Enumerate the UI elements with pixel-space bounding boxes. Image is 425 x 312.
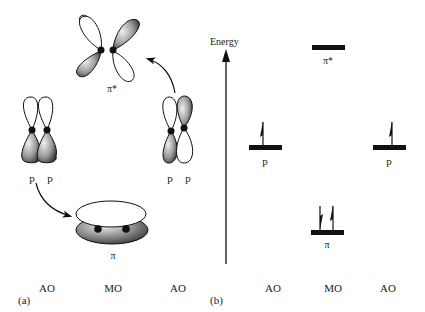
electron-up-pi [330,205,333,230]
mo-diagram-figure: π* p p p p π AO MO AO (a) Energy π* p p … [0,0,425,312]
p-left-level [249,145,282,150]
p-right-level-label: p [386,155,392,167]
pi-star-orbital-label: π* [107,83,117,95]
panel-a-column-mo: MO [104,282,122,294]
electron-up-p-left [260,121,263,145]
p-left-level-label: p [262,155,268,167]
panel-b-column-ao-left: AO [265,282,281,294]
p-right-level [373,145,406,150]
pi-star-level [312,45,345,50]
right-pair-p2-label: p [185,172,191,184]
pi-orbital [76,201,148,244]
pi-star-level-label: π* [323,55,333,67]
pi-star-orbital [77,15,140,81]
left-p-orbital-pair [22,97,57,163]
panel-b-column-ao-right: AO [380,282,396,294]
panel-b-column-mo: MO [324,282,342,294]
pi-level [311,230,344,235]
electron-up-p-right [389,121,392,145]
pi-level-label: π [324,239,329,251]
panel-b-caption: (b) [210,294,223,306]
panel-a-caption: (a) [18,294,30,306]
right-p-orbital-pair [163,96,193,163]
energy-axis [222,49,230,264]
right-pair-p1-label: p [167,172,173,184]
left-pair-p1-label: p [29,172,35,184]
electron-down-pi [320,206,323,230]
arrow-to-pi [36,183,70,216]
energy-axis-label: Energy [210,36,239,48]
left-pair-p2-label: p [47,172,53,184]
pi-orbital-label: π [110,250,115,262]
panel-a-column-ao-right: AO [170,282,186,294]
panel-a-column-ao-left: AO [39,282,55,294]
arrow-to-pi-star [148,59,175,93]
